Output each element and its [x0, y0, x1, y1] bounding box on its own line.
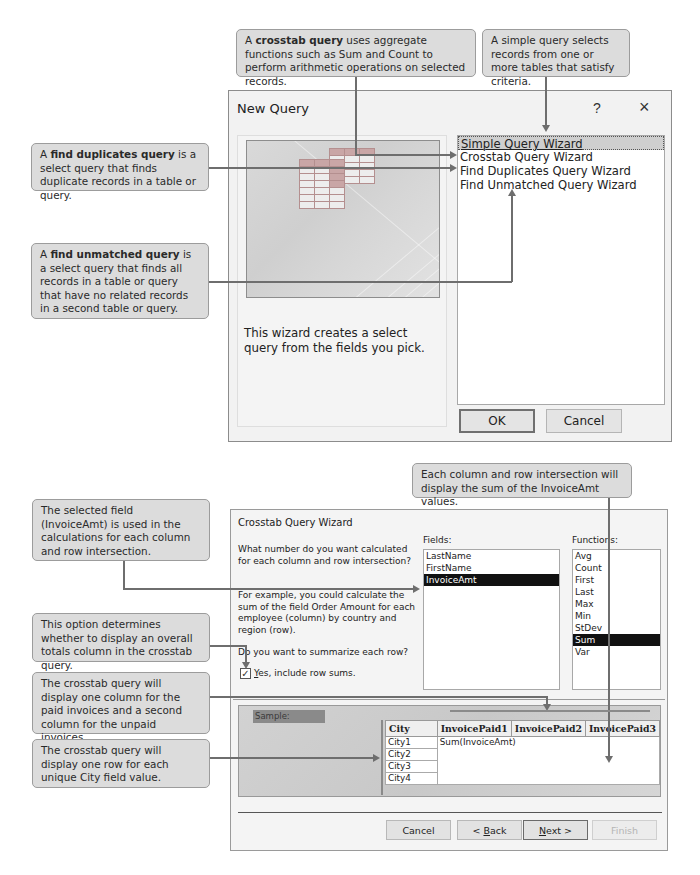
list-item-min[interactable]: Min [573, 610, 660, 622]
wizard-description: This wizard creates a select query from … [244, 326, 444, 356]
callout-crosstab-query: A crosstab query uses aggregate function… [236, 29, 476, 77]
connector-line [608, 498, 610, 756]
callout-text: The crosstab query will display one row … [41, 744, 169, 783]
list-item-avg[interactable]: Avg [573, 550, 660, 562]
close-icon[interactable]: × [639, 97, 650, 118]
connector-line [545, 77, 547, 125]
list-item-find-duplicates-query-wizard[interactable]: Find Duplicates Query Wizard [458, 164, 664, 178]
callout-rows: The crosstab query will display one row … [32, 739, 210, 788]
cancel-button[interactable]: Cancel [386, 820, 451, 840]
connector-line [210, 645, 246, 647]
crosstab-query-wizard-dialog: Crosstab Query Wizard What number do you… [230, 509, 668, 851]
callout-text: The selected field (InvoiceAmt) is used … [41, 504, 190, 557]
button-text: ext > [546, 825, 572, 836]
callout-text: A [40, 148, 50, 160]
sample-preview: Sample: City InvoicePaid1 InvoicePaid2 I… [238, 705, 661, 797]
callout-term: find duplicates query [50, 148, 174, 160]
callout-selected-field: The selected field (InvoiceAmt) is used … [32, 499, 210, 561]
arrow-icon [605, 756, 613, 763]
column-header: InvoicePaid2 [511, 721, 585, 737]
callout-term: crosstab query [255, 34, 343, 46]
list-item-var[interactable]: Var [573, 646, 660, 658]
connector-line [450, 710, 650, 712]
callout-text: Each column and row intersection will di… [421, 468, 618, 507]
fields-listbox[interactable]: LastName FirstName InvoiceAmt [423, 549, 560, 690]
button-text: < [472, 825, 483, 836]
calc-question: What number do you want calculated for e… [238, 544, 418, 567]
new-query-dialog: New Query ? × [228, 90, 672, 442]
cancel-button[interactable]: Cancel [546, 409, 622, 433]
functions-listbox[interactable]: Avg Count First Last Max Min StDev Sum V… [572, 549, 661, 690]
connector-line [245, 645, 247, 662]
ok-button[interactable]: OK [459, 409, 535, 433]
connector-line [381, 720, 383, 795]
wizard-preview-image [246, 140, 440, 298]
callout-find-unmatched: A find unmatched query is a select query… [31, 243, 209, 319]
summarize-question: Do you want to summarize each row? [238, 647, 408, 659]
finish-button: Finish [592, 820, 657, 840]
connector-line [210, 757, 373, 759]
callout-row-totals: This option determines whether to displa… [32, 613, 210, 662]
cell-value: Sum(InvoiceAmt) [437, 737, 659, 785]
help-icon[interactable]: ? [593, 100, 601, 116]
row-sums-checkbox[interactable]: ✓ Yes, include row sums. [240, 668, 356, 680]
callout-text: A simple query selects records from one … [491, 34, 614, 87]
list-item-invoiceamt[interactable]: InvoiceAmt [424, 574, 559, 586]
callout-simple-query: A simple query selects records from one … [482, 29, 630, 77]
list-item-first[interactable]: First [573, 574, 660, 586]
list-item-count[interactable]: Count [573, 562, 660, 574]
connector-line [511, 195, 513, 282]
list-item-lastname[interactable]: LastName [424, 550, 559, 562]
list-item-crosstab-query-wizard[interactable]: Crosstab Query Wizard [458, 150, 664, 164]
connector-line [355, 77, 357, 155]
callout-term: find unmatched query [50, 248, 179, 260]
checkbox-label-text: es, include row sums. [258, 668, 355, 678]
dialog-title: Crosstab Query Wizard [238, 517, 353, 528]
list-item-stdev[interactable]: StDev [573, 622, 660, 634]
callout-text: A [40, 248, 50, 260]
callout-columns: The crosstab query will display one colu… [32, 672, 210, 734]
callout-intersection-sum: Each column and row intersection will di… [412, 463, 632, 498]
checkbox-checked-icon[interactable]: ✓ [240, 668, 251, 679]
arrow-icon [242, 662, 250, 669]
accelerator-key: N [539, 825, 546, 836]
arrow-icon [450, 164, 457, 172]
arrow-icon [450, 151, 457, 159]
arrow-icon [508, 189, 516, 196]
button-text: ack [490, 825, 507, 836]
next-button[interactable]: Next > [523, 820, 588, 840]
sample-table: City InvoicePaid1 InvoicePaid2 InvoicePa… [385, 720, 660, 785]
list-item-firstname[interactable]: FirstName [424, 562, 559, 574]
row-value: City4 [386, 773, 438, 785]
connector-line [209, 281, 512, 283]
connector-line [123, 588, 413, 590]
column-header: InvoicePaid3 [585, 721, 659, 737]
fields-label: Fields: [423, 535, 452, 547]
checkbox-label: Yes, include row sums. [254, 668, 356, 680]
sample-label: Sample: [253, 710, 325, 723]
row-header-city: City [386, 721, 438, 737]
list-item-simple-query-wizard[interactable]: Simple Query Wizard [458, 136, 664, 150]
divider [233, 699, 665, 700]
arrow-icon [373, 754, 380, 762]
list-item-max[interactable]: Max [573, 598, 660, 610]
list-item-sum[interactable]: Sum [573, 634, 660, 646]
connector-line [355, 154, 450, 156]
row-value: City3 [386, 761, 438, 773]
arrow-icon [542, 125, 550, 132]
wizard-listbox[interactable]: Simple Query Wizard Crosstab Query Wizar… [457, 135, 665, 405]
connector-line [210, 696, 547, 698]
list-item-find-unmatched-query-wizard[interactable]: Find Unmatched Query Wizard [458, 178, 664, 192]
callout-text: The crosstab query will display one colu… [41, 677, 182, 743]
callout-text: A [245, 34, 255, 46]
callout-text: This option determines whether to displa… [41, 618, 193, 671]
functions-label: Functions: [572, 535, 618, 547]
list-item-last[interactable]: Last [573, 586, 660, 598]
column-header: InvoicePaid1 [437, 721, 511, 737]
connector-line [209, 167, 450, 169]
back-button[interactable]: < Back [457, 820, 522, 840]
row-value: City2 [386, 749, 438, 761]
row-value: City1 [386, 737, 438, 749]
connector-line [123, 561, 125, 589]
sum-expression: Sum(InvoiceAmt) [440, 737, 516, 747]
